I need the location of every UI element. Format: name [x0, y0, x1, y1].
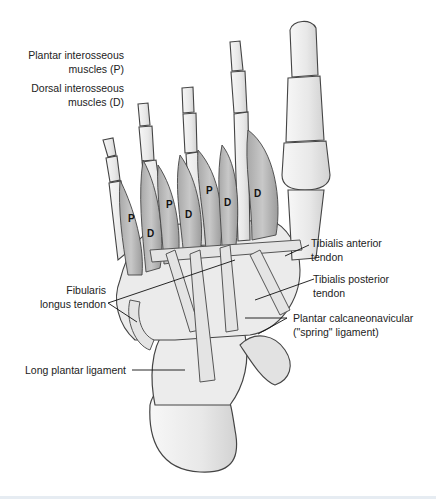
marker-plantar: P [206, 185, 213, 196]
label-line: tendon [311, 250, 382, 264]
label-fibularis-longus: Fibularis longus tendon [38, 283, 106, 311]
marker-dorsal: D [254, 188, 261, 199]
label-tibialis-anterior: Tibialis anterior tendon [311, 236, 382, 264]
label-line: Tibialis posterior [313, 272, 389, 286]
label-line: muscles (D) [20, 95, 124, 109]
label-tibialis-posterior: Tibialis posterior tendon [313, 272, 389, 300]
label-dorsal-interosseous: Dorsal interosseous muscles (D) [20, 81, 124, 109]
marker-plantar: P [166, 199, 173, 210]
foot-anatomy-figure: P D P D P D D Plantar interosseous muscl… [0, 0, 436, 499]
marker-dorsal: D [185, 209, 192, 220]
label-line: Long plantar ligament [25, 363, 126, 377]
label-line: ("spring" ligament) [293, 325, 413, 339]
label-line: longus tendon [38, 297, 106, 311]
label-line: muscles (P) [20, 62, 124, 76]
label-long-plantar-ligament: Long plantar ligament [25, 363, 126, 377]
marker-dorsal: D [224, 197, 231, 208]
marker-dorsal: D [147, 228, 154, 239]
label-line: Plantar calcaneonavicular [293, 311, 413, 325]
label-spring-ligament: Plantar calcaneonavicular ("spring" liga… [293, 311, 413, 339]
label-line: tendon [313, 286, 389, 300]
label-plantar-interosseous: Plantar interosseous muscles (P) [20, 48, 124, 76]
label-line: Fibularis [38, 283, 106, 297]
label-line: Plantar interosseous [20, 48, 124, 62]
label-line: Tibialis anterior [311, 236, 382, 250]
label-line: Dorsal interosseous [20, 81, 124, 95]
marker-plantar: P [128, 213, 135, 224]
